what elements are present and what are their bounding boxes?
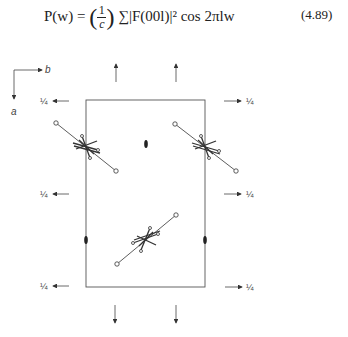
- quarter-arrows-left: [53, 101, 69, 286]
- molecule-bottom-center: [115, 213, 178, 266]
- axis-label-b: b: [45, 64, 51, 75]
- molecule-top-right: [173, 122, 238, 173]
- quarter-label-right-2: ¼: [246, 189, 254, 199]
- axis-indicator: [14, 70, 42, 99]
- screw-axes-bottom: [115, 305, 176, 323]
- screw-axes-top: [116, 64, 176, 82]
- quarter-label-left-3: ¼: [40, 281, 48, 291]
- twofold-axis-symbols: [84, 140, 207, 244]
- quarter-label-left-1: ¼: [40, 96, 48, 106]
- quarter-arrows-right: [224, 101, 242, 287]
- quarter-label-right-1: ¼: [246, 96, 254, 106]
- crystal-packing-diagram: [0, 0, 348, 337]
- unit-cell: [86, 100, 205, 287]
- axis-label-a: a: [11, 106, 17, 117]
- quarter-label-right-3: ¼: [246, 282, 254, 292]
- quarter-label-left-2: ¼: [40, 189, 48, 199]
